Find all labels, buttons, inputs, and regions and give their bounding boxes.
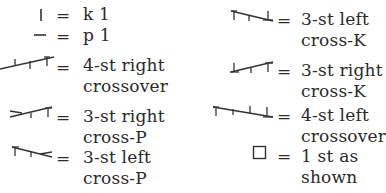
legend-label: cross-P [83,168,147,189]
equals-sign: = [56,26,70,46]
legend-label: shown [301,167,357,188]
equals-sign: = [56,107,70,127]
legend-label: 4-st right [83,55,165,76]
legend-label: crossover [83,76,168,97]
legend-label: cross-P [83,127,147,148]
3-st-left-cross-p-icon [10,143,56,163]
equals-sign: = [56,5,70,25]
equals-sign: = [277,10,291,30]
3-st-right-cross-p-icon [8,103,56,123]
equals-sign: = [277,146,291,166]
legend-label: 3-st left [83,147,151,168]
3-st-right-cross-k-icon [229,58,277,78]
empty-square-icon [252,145,268,161]
equals-sign: = [277,61,291,81]
legend-label: crossover [301,126,386,147]
legend-label: 4-st left [301,105,369,126]
4-st-left-crossover-icon [211,103,277,123]
legend-label: 3-st right [83,106,165,127]
legend-label: p 1 [83,25,111,46]
4-st-right-crossover-icon [0,52,56,72]
equals-sign: = [56,148,70,168]
knit-symbol-icon [38,8,44,22]
legend-label: cross-K [301,81,366,102]
legend-label: k 1 [83,4,110,25]
equals-sign: = [56,57,70,77]
equals-sign: = [277,106,291,126]
legend-label: 3-st right [301,60,383,81]
legend-label: 1 st as [301,146,358,167]
legend-label: 3-st left [301,9,369,30]
purl-symbol-icon [33,32,47,38]
legend-label: cross-K [301,30,366,51]
3-st-left-cross-k-icon [229,7,277,27]
